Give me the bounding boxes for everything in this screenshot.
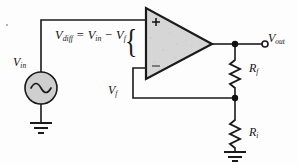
circuit-diagram: Vin Vdiff = Vin − Vf { Vf Vout Rf Ri <box>0 0 298 163</box>
resistor-rf-icon <box>230 60 240 88</box>
label-equation-vdiff: Vdiff = Vin − Vf <box>55 29 126 43</box>
junction-dot-feedback <box>232 95 238 101</box>
junction-dot-output <box>232 41 238 47</box>
label-r-i: Ri <box>249 126 258 140</box>
ground-ri-icon <box>224 152 246 161</box>
label-v-in: Vin <box>13 56 26 70</box>
resistor-ri-icon <box>230 120 240 148</box>
scan-artifact <box>6 24 8 26</box>
brace-glyph: { <box>125 22 137 60</box>
label-v-f: Vf <box>108 84 117 98</box>
label-v-out: Vout <box>268 32 285 46</box>
label-r-f: Rf <box>249 62 258 76</box>
ground-source-icon <box>30 123 52 133</box>
